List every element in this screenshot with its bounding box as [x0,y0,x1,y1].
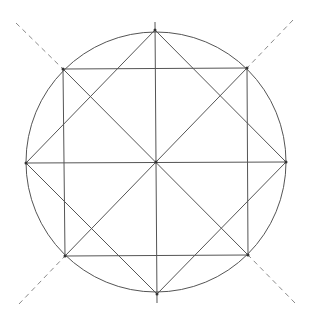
vertex-point [156,293,159,296]
dashed-extension-line [16,23,63,69]
vertex-point [25,162,28,165]
dashed-extension-line [19,256,65,304]
geometric-diagram [0,0,311,318]
dashed-extension-line [247,20,293,68]
vertex-point [64,255,67,258]
vertex-point [155,161,158,164]
vertex-point [247,254,250,257]
vertex-point [154,29,157,32]
vertex-point [285,161,288,164]
vertex-point [246,67,249,70]
vertex-point [62,68,65,71]
dashed-extension-line [248,255,295,303]
